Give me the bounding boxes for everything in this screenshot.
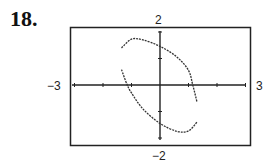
- graph-window: [0, 0, 264, 163]
- upper-branch-curve: [122, 39, 198, 103]
- lower-branch-curve: [122, 70, 198, 133]
